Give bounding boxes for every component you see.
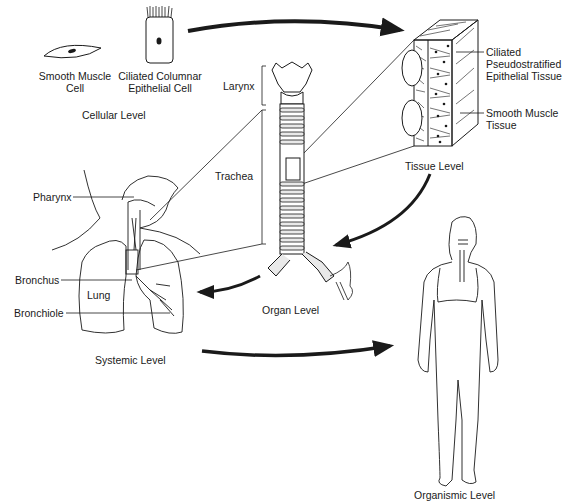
smooth-muscle-tissue-label: Smooth Muscle Tissue: [486, 107, 558, 131]
smooth-muscle-cell-label: Smooth Muscle Cell: [30, 70, 120, 94]
arrow-cellular-to-tissue: [188, 21, 400, 31]
smooth-muscle-cell-label-line1: Smooth Muscle: [30, 70, 120, 82]
human-figure-icon: [418, 217, 498, 486]
epithelial-tissue-line2: Pseudostratified: [486, 58, 562, 70]
bronchiole-label: Bronchiole: [14, 307, 64, 319]
ciliated-epithelial-tissue-label: Ciliated Pseudostratified Epithelial Tis…: [486, 46, 562, 82]
pharynx-label: Pharynx: [33, 191, 72, 203]
systemic-level-label: Systemic Level: [95, 354, 166, 366]
ciliated-columnar-cell-label: Ciliated Columnar Epithelial Cell: [115, 70, 205, 94]
smooth-muscle-tissue-line2: Tissue: [486, 119, 558, 131]
organismic-level-label: Organismic Level: [414, 489, 495, 501]
trachea-label: Trachea: [215, 170, 253, 182]
lung-label: Lung: [87, 289, 110, 301]
tissue-block-icon: [402, 20, 484, 146]
ciliated-columnar-cell-icon: [146, 6, 173, 63]
larynx-trachea-icon: [262, 62, 353, 300]
smooth-muscle-cell-icon: [44, 45, 101, 57]
smooth-muscle-tissue-line1: Smooth Muscle: [486, 107, 558, 119]
respiratory-system-icon: [52, 170, 200, 333]
smooth-muscle-cell-label-line2: Cell: [30, 82, 120, 94]
ciliated-columnar-cell-label-line2: Epithelial Cell: [115, 82, 205, 94]
arrow-tissue-to-organ: [336, 174, 430, 245]
tissue-level-label: Tissue Level: [405, 160, 464, 172]
larynx-label: Larynx: [223, 80, 255, 92]
ciliated-columnar-cell-label-line1: Ciliated Columnar: [115, 70, 205, 82]
arrow-systemic-to-organismic: [202, 346, 390, 355]
epithelial-tissue-line1: Ciliated: [486, 46, 562, 58]
trachea-cutout-window: [286, 158, 300, 180]
cellular-level-label: Cellular Level: [82, 109, 146, 121]
epithelial-tissue-line3: Epithelial Tissue: [486, 70, 562, 82]
bronchus-label: Bronchus: [15, 274, 59, 286]
organ-level-label: Organ Level: [262, 304, 319, 316]
arrow-organ-to-systemic: [200, 276, 260, 292]
